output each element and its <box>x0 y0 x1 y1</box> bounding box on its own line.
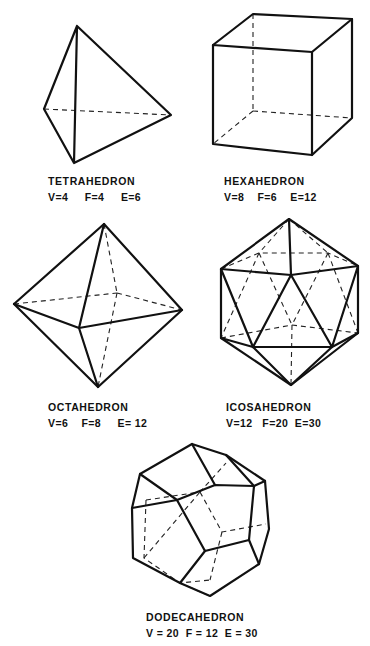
tetrahedron-drawing <box>44 26 171 163</box>
dodecahedron-label: DODECAHEDRON <box>146 610 244 625</box>
dodecahedron-drawing <box>132 444 269 596</box>
octahedron-stats: V=6 F=8 E= 12 <box>48 417 147 429</box>
hexahedron-stats: V=8 F=6 E=12 <box>224 191 317 203</box>
dodecahedron-stats: V = 20 F = 12 E = 30 <box>146 627 258 639</box>
icosahedron-label: ICOSAHEDRON <box>226 400 311 415</box>
octahedron-drawing <box>14 224 182 387</box>
icosahedron-stats: V=12 F=20 E=30 <box>226 417 321 429</box>
tetrahedron-label: TETRAHEDRON <box>48 174 135 189</box>
tetrahedron-stats: V=4 F=4 E=6 <box>48 191 141 203</box>
icosahedron-drawing <box>221 219 358 385</box>
platonic-solids-diagram <box>0 0 370 646</box>
hexahedron-label: HEXAHEDRON <box>224 174 305 189</box>
hexahedron-drawing <box>213 14 352 155</box>
octahedron-label: OCTAHEDRON <box>48 400 128 415</box>
